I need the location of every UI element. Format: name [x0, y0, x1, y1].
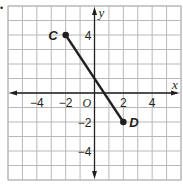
y-tick-label: 4 — [85, 29, 92, 43]
x-tick-label: −4 — [30, 96, 44, 110]
x-axis-arrow-left-icon — [9, 91, 17, 96]
y-tick-label: −2 — [78, 116, 92, 130]
x-tick-label: 4 — [149, 96, 156, 110]
origin-label: O — [83, 96, 92, 110]
y-axis-arrow-up-icon — [92, 7, 97, 15]
y-axis-label: y — [97, 5, 105, 20]
point-d-label: D — [129, 115, 139, 130]
y-tick-label: −4 — [78, 145, 92, 159]
point-c-marker — [62, 32, 69, 39]
x-axis-label: x — [171, 77, 178, 92]
point-d-marker — [120, 119, 127, 126]
axes — [9, 7, 179, 179]
coordinate-plane: −4−2244−2−4 x y O CD — [0, 0, 183, 186]
y-axis-arrow-down-icon — [92, 171, 97, 179]
x-tick-label: 2 — [120, 96, 127, 110]
x-tick-label: −2 — [59, 96, 73, 110]
point-c-label: C — [48, 28, 58, 43]
